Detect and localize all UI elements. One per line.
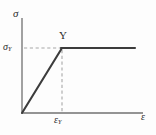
plot-canvas: [0, 0, 156, 135]
yield-stress-tick-label: σY: [3, 42, 11, 53]
y-axis-label: σ: [13, 8, 18, 19]
yield-point-label: Y: [59, 30, 67, 41]
x-axis-label: ε: [141, 112, 145, 122]
stress-strain-figure: σ ε σY εY Y: [0, 0, 156, 135]
yield-strain-tick-label: εY: [54, 115, 61, 126]
yield-stress-subscript: Y: [8, 45, 11, 52]
elastic-segment: [22, 48, 62, 113]
yield-strain-subscript: Y: [58, 118, 61, 125]
